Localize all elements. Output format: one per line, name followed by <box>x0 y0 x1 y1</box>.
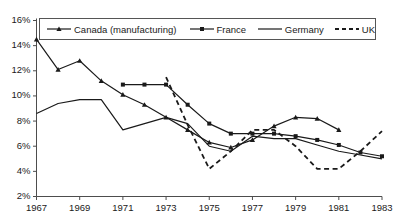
data-point-marker <box>185 127 190 132</box>
data-point-marker <box>336 127 341 132</box>
data-point-marker <box>337 143 341 147</box>
x-tick-label: 1973 <box>146 203 186 213</box>
legend-entry-canada-manufacturing: Canada (manufacturing) <box>46 24 176 35</box>
data-point-marker <box>207 122 211 126</box>
y-tick-label: 14% <box>11 40 30 50</box>
legend-label: Canada (manufacturing) <box>74 24 176 35</box>
axis-ticks <box>33 21 382 201</box>
legend-swatch-icon <box>46 24 72 34</box>
data-point-marker <box>186 103 190 107</box>
data-point-marker <box>121 83 125 87</box>
y-tick-label: 10% <box>11 90 30 100</box>
y-tick-label: 16% <box>11 15 30 25</box>
data-point-marker <box>315 138 319 142</box>
y-tick-label: 4% <box>17 166 31 176</box>
x-tick-label: 1967 <box>17 203 57 213</box>
legend-swatch-icon <box>334 24 360 34</box>
series-line-uk <box>166 77 382 169</box>
data-point-marker <box>77 58 82 63</box>
legend-entry-france: France <box>189 24 247 35</box>
legend-label: France <box>217 24 247 35</box>
y-tick-label: 8% <box>17 116 31 126</box>
y-tick-label: 12% <box>11 65 30 75</box>
x-tick-label: 1977 <box>232 203 272 213</box>
chart-legend: Canada (manufacturing)FranceGermanyUK <box>39 18 376 40</box>
data-point-marker <box>229 132 233 136</box>
data-point-marker <box>380 154 384 158</box>
data-point-marker <box>164 83 168 87</box>
series-line-germany <box>37 100 383 159</box>
y-tick-label: 6% <box>17 141 31 151</box>
legend-label: Germany <box>285 24 324 35</box>
legend-entry-uk: UK <box>334 24 375 35</box>
data-series-group <box>34 37 384 169</box>
series-line-france <box>123 85 382 157</box>
legend-swatch-icon <box>189 24 215 34</box>
x-tick-label: 1975 <box>189 203 229 213</box>
x-tick-label: 1971 <box>103 203 143 213</box>
data-point-marker <box>294 134 298 138</box>
x-tick-label: 1979 <box>276 203 316 213</box>
data-point-marker <box>272 132 276 136</box>
data-point-marker <box>120 92 125 97</box>
y-tick-label: 2% <box>17 191 31 201</box>
x-tick-label: 1981 <box>319 203 359 213</box>
legend-swatch-icon <box>257 24 283 34</box>
legend-label: UK <box>362 24 375 35</box>
legend-entry-germany: Germany <box>257 24 324 35</box>
line-chart: 2%4%6%8%10%12%14%16% 1967196919711973197… <box>0 0 400 223</box>
x-tick-label: 1983 <box>362 203 400 213</box>
data-point-marker <box>142 83 146 87</box>
x-tick-label: 1969 <box>60 203 100 213</box>
axis-lines <box>37 19 383 197</box>
